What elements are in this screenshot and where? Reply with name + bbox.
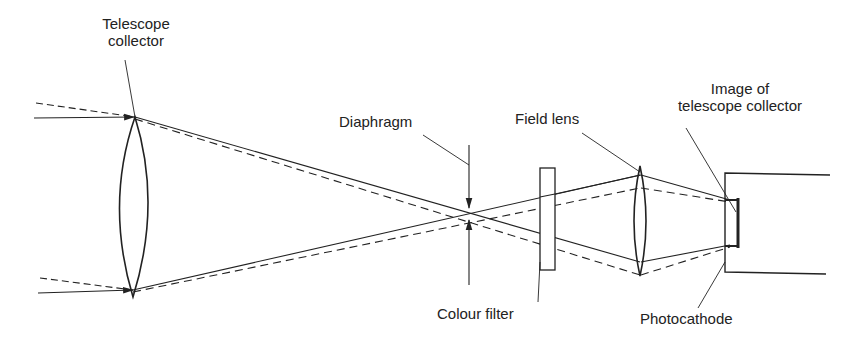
photomultiplier-tube bbox=[725, 173, 830, 274]
colour-filter bbox=[540, 168, 555, 270]
field-lens bbox=[634, 166, 646, 276]
diaphragm-label: Diaphragm bbox=[339, 113, 412, 130]
telescope-label-line1: Telescope bbox=[86, 15, 186, 32]
incoming-ray-top bbox=[34, 117, 134, 118]
colour-filter-label: Colour filter bbox=[437, 305, 514, 322]
image-of-collector-label: Image of telescope collector bbox=[640, 80, 840, 114]
optical-diagram: Telescope collector Diaphragm Field lens… bbox=[0, 0, 865, 338]
image-label-line1: Image of bbox=[640, 80, 840, 97]
telescope-collector-label: Telescope collector bbox=[86, 15, 186, 49]
image-label-line2: telescope collector bbox=[640, 97, 840, 114]
field-lens-label: Field lens bbox=[515, 110, 579, 127]
diagram-drawing bbox=[0, 0, 865, 338]
photocathode-label: Photocathode bbox=[640, 310, 733, 327]
incoming-ray-bottom bbox=[38, 290, 133, 293]
telescope-collector-lens bbox=[119, 117, 148, 297]
telescope-label-line2: collector bbox=[86, 32, 186, 49]
